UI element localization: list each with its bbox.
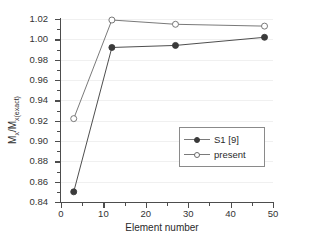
y-tick-major bbox=[55, 19, 60, 20]
gridline-horizontal bbox=[61, 80, 273, 81]
x-tick-label: 10 bbox=[88, 209, 118, 219]
y-tick-major bbox=[55, 141, 60, 142]
y-axis-label-m1: M bbox=[7, 136, 18, 144]
y-tick-minor bbox=[57, 151, 60, 152]
x-tick-label: 30 bbox=[173, 209, 203, 219]
gridline-horizontal bbox=[61, 121, 273, 122]
y-tick-minor bbox=[57, 29, 60, 30]
gridline-horizontal bbox=[61, 182, 273, 183]
y-tick-major bbox=[55, 202, 60, 203]
x-tick-minor bbox=[167, 203, 168, 206]
x-tick-label: 20 bbox=[131, 209, 161, 219]
legend-item-present: present bbox=[184, 147, 259, 162]
x-tick-label: 40 bbox=[216, 209, 246, 219]
x-tick-minor bbox=[209, 203, 210, 206]
gridline-horizontal bbox=[61, 100, 273, 101]
y-tick-label: 1.00 bbox=[8, 34, 48, 44]
y-tick-label: 0.84 bbox=[8, 197, 48, 207]
y-tick-minor bbox=[57, 172, 60, 173]
y-tick-minor bbox=[57, 131, 60, 132]
y-tick-major bbox=[55, 39, 60, 40]
y-tick-major bbox=[55, 161, 60, 162]
y-tick-major bbox=[55, 121, 60, 122]
legend-marker-filled-circle-icon bbox=[184, 134, 210, 146]
y-tick-major bbox=[55, 100, 60, 101]
y-axis-label: Mx/Mx(exact) bbox=[7, 60, 20, 180]
y-tick-minor bbox=[57, 50, 60, 51]
y-tick-major bbox=[55, 182, 60, 183]
y-tick-minor bbox=[57, 192, 60, 193]
plot-area bbox=[61, 19, 273, 202]
x-tick-minor bbox=[82, 203, 83, 206]
y-axis-label-slash: /M bbox=[7, 121, 18, 132]
x-tick-minor bbox=[252, 203, 253, 206]
legend-label: S1 [9] bbox=[214, 134, 239, 145]
gridline-horizontal bbox=[61, 19, 273, 20]
x-axis-label: Element number bbox=[0, 222, 324, 233]
x-tick-minor bbox=[125, 203, 126, 206]
gridline-horizontal bbox=[61, 60, 273, 61]
y-tick-major bbox=[55, 80, 60, 81]
legend-label: present bbox=[214, 149, 246, 160]
x-tick-label: 0 bbox=[46, 209, 76, 219]
legend-marker-open-circle-icon bbox=[184, 149, 210, 161]
y-tick-minor bbox=[57, 70, 60, 71]
x-tick-label: 50 bbox=[258, 209, 288, 219]
y-axis-label-sub1: x bbox=[13, 132, 20, 136]
chart-figure: 0.840.860.880.900.920.940.960.981.001.02… bbox=[0, 0, 324, 240]
y-axis-label-sub2: x(exact) bbox=[13, 96, 20, 121]
chart-legend: S1 [9] present bbox=[179, 127, 265, 167]
y-tick-label: 1.02 bbox=[8, 14, 48, 24]
gridline-horizontal bbox=[61, 39, 273, 40]
y-axis-spine bbox=[60, 18, 61, 203]
y-tick-minor bbox=[57, 111, 60, 112]
legend-item-s1: S1 [9] bbox=[184, 132, 259, 147]
y-tick-major bbox=[55, 60, 60, 61]
y-tick-minor bbox=[57, 90, 60, 91]
